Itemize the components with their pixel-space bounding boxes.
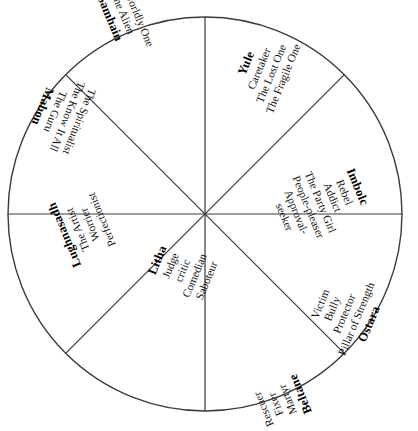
wheel-diagram: Yule Caretaker The Lost One The Fragile …	[0, 0, 418, 431]
